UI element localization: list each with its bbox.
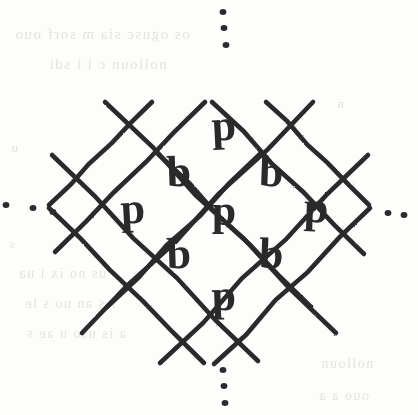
lattice-letter-cell-upper-right: b [258,147,284,197]
ellipsis-bottom [220,367,229,406]
lattice-letter-cell-center: p [212,186,236,235]
ellipsis-right-dot-0 [385,210,392,216]
lattice-lines-ascending [49,102,370,364]
lattice-letter-cell-left: p [119,183,146,233]
ellipsis-top-dot-2 [223,42,230,48]
ellipsis-top-dot-1 [221,25,228,31]
ellipsis-left-dot-0 [3,202,10,208]
ellipsis-right-dot-1 [401,212,408,218]
ellipsis-left-dot-1 [30,205,37,211]
lattice-letter-cell-bottom: p [211,271,237,321]
ellipsis-bottom-dot-1 [221,383,228,389]
ellipsis-right [385,210,408,218]
lattice-letter-cell-right: p [303,183,329,233]
lattice-lines-descending [49,102,369,363]
ellipsis-top [220,9,230,48]
lattice-letter-cell-lower-left: b [166,229,192,279]
lattice-letter-cell-upper-left: b [166,147,192,197]
lattice-letter-cell-top: p [210,100,237,150]
lattice-diagram: pbbpppbbp [0,0,418,415]
ellipsis-bottom-dot-0 [220,367,227,373]
ellipsis-left-dot-2 [50,209,57,215]
lattice-letter-cell-lower-right: b [258,229,284,279]
ellipsis-bottom-dot-2 [222,400,229,406]
ellipsis-top-dot-0 [220,9,227,15]
figure-canvas: os ogusc sia m sorf ouonolloun c i i sdi… [0,0,418,415]
